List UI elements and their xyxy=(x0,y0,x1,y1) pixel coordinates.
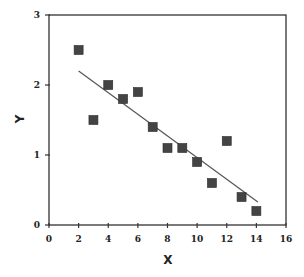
y-tick-label: 0 xyxy=(34,220,40,230)
plot-border xyxy=(49,15,286,225)
square-marker xyxy=(207,179,216,188)
square-marker xyxy=(119,95,128,104)
scatter-chart: 0246810121416 0123 X Y xyxy=(0,0,304,277)
square-marker xyxy=(133,88,142,97)
x-tick-label: 10 xyxy=(191,234,204,244)
x-tick-label: 16 xyxy=(280,234,293,244)
square-marker xyxy=(74,46,83,55)
square-marker xyxy=(89,116,98,125)
x-tick-label: 2 xyxy=(75,234,81,244)
square-marker xyxy=(178,144,187,153)
x-tick-label: 14 xyxy=(250,234,263,244)
x-tick-label: 12 xyxy=(220,234,233,244)
square-marker xyxy=(193,158,202,167)
square-marker xyxy=(104,81,113,90)
square-marker xyxy=(163,144,172,153)
square-marker xyxy=(237,193,246,202)
x-tick-label: 6 xyxy=(135,234,141,244)
square-marker xyxy=(222,137,231,146)
x-tick-label: 0 xyxy=(46,234,52,244)
y-tick-label: 2 xyxy=(34,80,40,90)
y-tick-label: 3 xyxy=(34,10,40,20)
x-axis-title: X xyxy=(163,253,173,267)
square-marker xyxy=(148,123,157,132)
x-tick-label: 8 xyxy=(164,234,170,244)
plot-frame xyxy=(49,15,286,225)
y-tick-label: 1 xyxy=(34,150,40,160)
data-points xyxy=(74,46,261,216)
y-axis-title: Y xyxy=(13,114,27,124)
y-axis-ticks: 0123 xyxy=(34,10,50,230)
x-tick-label: 4 xyxy=(105,234,111,244)
x-axis-ticks: 0246810121416 xyxy=(46,223,292,244)
square-marker xyxy=(252,207,261,216)
